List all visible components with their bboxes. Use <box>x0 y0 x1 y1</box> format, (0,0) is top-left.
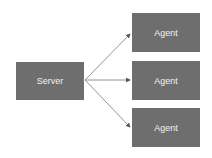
agent-label: Agent <box>154 123 178 133</box>
agent-node-2: Agent <box>132 61 200 100</box>
server-node: Server <box>16 62 84 100</box>
agent-label: Agent <box>154 28 178 38</box>
agent-node-3: Agent <box>132 108 200 147</box>
agent-node-1: Agent <box>132 13 200 52</box>
edge-server-agent-3 <box>85 80 130 127</box>
agent-label: Agent <box>154 76 178 86</box>
edge-server-agent-1 <box>85 34 130 80</box>
server-label: Server <box>37 76 64 86</box>
